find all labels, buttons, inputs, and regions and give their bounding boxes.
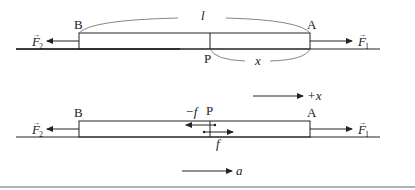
length-brace-left xyxy=(79,18,178,33)
label-length-l: l xyxy=(201,8,205,23)
label-f: f xyxy=(216,136,222,151)
positive-x-axis: +x xyxy=(253,88,322,103)
label-a-vector: a xyxy=(236,163,243,178)
svg-text:−f: −f xyxy=(185,104,200,119)
top-diagram: B A P l x F 2 → F 1 → xyxy=(16,8,380,68)
svg-text:→: → xyxy=(32,118,40,127)
label-x: x xyxy=(254,53,261,68)
x-brace-right xyxy=(270,49,310,61)
label-f2-top: F 2 → xyxy=(31,30,43,51)
label-b-top: B xyxy=(74,17,83,32)
svg-text:→: → xyxy=(358,30,366,39)
label-p-top: P xyxy=(204,51,211,66)
x-brace-left xyxy=(210,49,245,61)
label-p-bottom: P xyxy=(206,103,213,118)
svg-text:→: → xyxy=(32,30,40,39)
svg-text:→: → xyxy=(358,118,366,127)
svg-text:f: f xyxy=(216,136,222,151)
label-a-bottom: A xyxy=(307,105,317,120)
rod-bottom xyxy=(79,121,310,137)
svg-text:2: 2 xyxy=(39,42,43,51)
label-a-top: A xyxy=(307,17,317,32)
bottom-diagram: B A P −f f F 2 → F 1 → a xyxy=(16,103,380,178)
label-neg-f: −f xyxy=(185,104,200,119)
svg-text:2: 2 xyxy=(39,130,43,139)
rod-force-diagram: B A P l x F 2 → F 1 → +x B xyxy=(0,0,415,190)
svg-text:1: 1 xyxy=(365,42,369,51)
svg-text:1: 1 xyxy=(365,130,369,139)
label-f1-bottom: F 1 → xyxy=(357,118,369,139)
rod-top xyxy=(79,33,310,49)
length-brace-right xyxy=(226,18,310,33)
label-b-bottom: B xyxy=(74,105,83,120)
label-f1-top: F 1 → xyxy=(357,30,369,51)
label-f2-bottom: F 2 → xyxy=(31,118,43,139)
axis-label: +x xyxy=(307,88,322,103)
